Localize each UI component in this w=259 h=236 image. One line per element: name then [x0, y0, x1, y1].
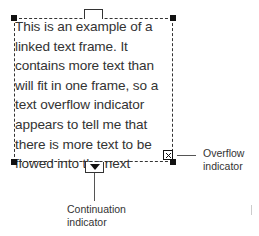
overflow-indicator-icon[interactable] — [163, 150, 173, 160]
continuation-callout-line — [94, 173, 95, 201]
overflow-label-line1: Overflow — [203, 147, 244, 160]
overflow-callout-line — [177, 155, 196, 156]
overflow-label-line2: indicator — [203, 160, 244, 173]
x-mark-icon — [164, 151, 174, 161]
frame-text: This is an example of a linked text fram… — [15, 17, 177, 174]
overflow-label: Overflow indicator — [203, 147, 244, 172]
in-port-box[interactable] — [84, 9, 103, 19]
continuation-label-line1: Continuation — [67, 203, 126, 216]
down-triangle-icon — [90, 164, 100, 170]
continuation-label: Continuation indicator — [67, 203, 126, 228]
resize-handle-bottom-left[interactable] — [11, 159, 17, 165]
continuation-label-line2: indicator — [67, 216, 126, 229]
resize-handle-top-left[interactable] — [11, 15, 17, 21]
resize-handle-top-right[interactable] — [170, 15, 176, 21]
continuation-indicator-box[interactable] — [85, 162, 104, 173]
faint-mark — [251, 205, 252, 215]
